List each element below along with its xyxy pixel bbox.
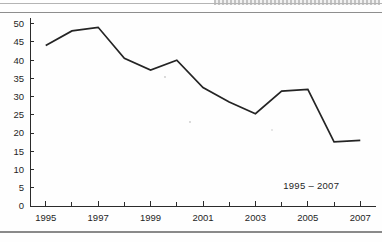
x-tick-label: 1997 bbox=[88, 212, 109, 223]
y-tick-label: 50 bbox=[13, 18, 24, 29]
y-tick-label: 20 bbox=[13, 127, 24, 138]
y-tick-label: 5 bbox=[19, 182, 24, 193]
y-axis-tick-labels: 50454035302520151050 bbox=[13, 18, 24, 211]
y-tick-label: 30 bbox=[13, 91, 24, 102]
x-tick-label: 2001 bbox=[192, 212, 213, 223]
page-rule-bottom bbox=[0, 231, 382, 233]
y-tick-label: 10 bbox=[13, 164, 24, 175]
line-chart: 50454035302520151050 1995199719992001200… bbox=[0, 12, 382, 228]
y-axis-tick-marks bbox=[30, 24, 34, 206]
x-tick-label: 2007 bbox=[350, 212, 371, 223]
scan-speck bbox=[164, 76, 166, 78]
x-tick-label: 1999 bbox=[140, 212, 161, 223]
x-tick-label: 2005 bbox=[297, 212, 318, 223]
y-tick-label: 40 bbox=[13, 55, 24, 66]
page-canvas: 50454035302520151050 1995199719992001200… bbox=[0, 0, 382, 242]
x-tick-label: 1995 bbox=[35, 212, 56, 223]
x-axis-tick-labels: 1995199719992001200320052007 bbox=[35, 212, 371, 223]
y-tick-label: 35 bbox=[13, 73, 24, 84]
data-series-line bbox=[46, 27, 361, 142]
y-tick-label: 25 bbox=[13, 109, 24, 120]
y-tick-label: 45 bbox=[13, 36, 24, 47]
chart-plot-area: 50454035302520151050 1995199719992001200… bbox=[0, 12, 382, 228]
y-tick-label: 0 bbox=[19, 200, 24, 211]
page-rule-top-upper bbox=[0, 3, 382, 4]
x-axis-tick-marks bbox=[46, 201, 361, 206]
x-tick-label: 2003 bbox=[245, 212, 266, 223]
scan-speck bbox=[271, 129, 273, 131]
scan-speck bbox=[189, 121, 191, 123]
y-tick-label: 15 bbox=[13, 146, 24, 157]
range-annotation-label: 1995 – 2007 bbox=[283, 180, 339, 191]
